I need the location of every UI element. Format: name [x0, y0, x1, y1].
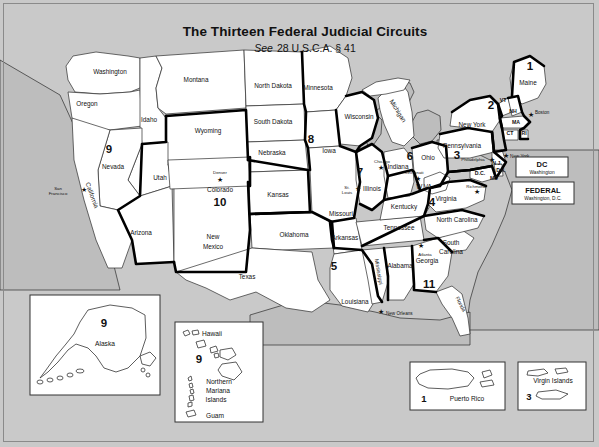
- circuit-number-10: 10: [214, 196, 227, 208]
- state-label-new-york: New York: [459, 121, 487, 128]
- state-label-wyoming: Wyoming: [195, 127, 222, 135]
- city-label-san-francisco-2: Francisco: [49, 191, 68, 196]
- page-title: The Thirteen Federal Judicial Circuits: [183, 24, 428, 39]
- state-north-dakota: [244, 50, 304, 106]
- state-label-iowa: Iowa: [322, 147, 336, 154]
- state-abbr-md: MD: [490, 175, 498, 181]
- state-label-missouri: Missouri: [329, 210, 353, 217]
- state-label-w-va-: W.VA.: [416, 183, 434, 190]
- circuit-number-11: 11: [423, 278, 436, 290]
- city-label-boston: Boston: [535, 110, 550, 115]
- state-label-arizona: Arizona: [130, 229, 152, 236]
- city-label-philadelphia: Philadelphia: [461, 157, 485, 162]
- state-label-utah: Utah: [153, 174, 167, 181]
- state-label-pennsylvania: Pennsylvania: [443, 142, 481, 150]
- state-label-illinois: Illinois: [363, 185, 381, 192]
- inset-virgin-islands-circuit: 3: [526, 391, 531, 402]
- aleutian-4: [67, 373, 73, 377]
- aleutian-1: [37, 380, 43, 384]
- state-label-georgia: Georgia: [416, 257, 439, 265]
- state-wyoming: [166, 110, 248, 164]
- state-label-texas: Texas: [239, 273, 256, 280]
- city-label-denver: Denver: [213, 170, 227, 175]
- inset-virgin-islands-label: Virgin Islands: [533, 377, 573, 385]
- inset-alaska-circuit: 9: [101, 317, 107, 329]
- star-new-york-city: ★: [503, 152, 509, 159]
- state-label-carolina: Carolina: [439, 248, 463, 255]
- state-abbr-n-j-: N.J.: [492, 160, 502, 166]
- inset-alaska-label: Alaska: [95, 340, 115, 347]
- state-label-north-carolina: North Carolina: [436, 216, 478, 223]
- inset-mariana-label-1: Northern: [206, 378, 232, 385]
- circuit-number-4: 4: [429, 196, 436, 208]
- state-label-new: New: [207, 233, 220, 240]
- state-label-montana: Montana: [184, 76, 209, 83]
- state-abbr-vt: VT: [500, 97, 507, 103]
- inset-hawaii-circuit: 9: [196, 353, 202, 365]
- state-label-ohio: Ohio: [421, 154, 435, 161]
- state-label-south-dakota: South Dakota: [254, 118, 293, 125]
- aleutian-5: [76, 369, 84, 373]
- state-label-nevada: Nevada: [102, 163, 124, 170]
- inset-virgin-islands-box: [518, 362, 586, 410]
- mariana-3: [190, 389, 194, 394]
- state-abbr-d-c-: D.C.: [475, 170, 486, 176]
- state-label-nebraska: Nebraska: [258, 149, 286, 156]
- aleutian-2: [47, 378, 53, 382]
- subtitle-see: See: [254, 42, 273, 54]
- circuit-number-6: 6: [407, 150, 413, 162]
- page-subtitle: See28 U.S.C.A. § 41: [254, 42, 356, 54]
- aleutian-3: [57, 376, 63, 380]
- alaska-island-2: [141, 368, 145, 372]
- subtitle-citation: 28 U.S.C.A. § 41: [277, 42, 356, 54]
- legend-federal-title: FEDERAL: [525, 186, 561, 195]
- city-label-st-louis-2: Louis: [342, 190, 352, 195]
- circuit-number-7: 7: [357, 166, 363, 178]
- state-label-wisconsin: Wisconsin: [344, 113, 374, 120]
- state-label-oregon: Oregon: [76, 100, 98, 108]
- puerto-rico-landmass: [416, 369, 474, 389]
- circuit-number-9: 9: [106, 143, 112, 155]
- state-abbr-ri: RI: [521, 130, 527, 136]
- city-label-richmond: Richmond: [466, 184, 486, 189]
- state-label-washington: Washington: [93, 68, 127, 76]
- legend-dc-subtitle: Washington: [529, 170, 554, 175]
- state-label-indiana: Indiana: [388, 163, 409, 170]
- inset-puerto-rico-label: Puerto Rico: [450, 395, 485, 402]
- state-label-virginia: Virginia: [435, 195, 457, 203]
- circuit-number-2: 2: [488, 99, 494, 111]
- state-label-kansas: Kansas: [267, 191, 288, 198]
- state-label-mexico: Mexico: [203, 243, 224, 250]
- legend-federal-subtitle: Washington, D.C.: [524, 196, 561, 201]
- state-label-maine: Maine: [519, 79, 537, 86]
- state-colorado: [168, 157, 250, 189]
- star-new-orleans: ★: [378, 308, 384, 315]
- city-label-new-orleans: New Orleans: [386, 311, 413, 316]
- state-abbr-ma: MA: [512, 119, 520, 125]
- state-label-louisiana: Louisiana: [341, 298, 369, 305]
- inset-mariana-label-3: Islands: [206, 396, 228, 403]
- hawaii-kauai: [192, 330, 199, 335]
- map-svg: ★ San Francisco ★ Denver ★ St. Louis ★ C…: [0, 0, 599, 447]
- state-label-kentucky: Kentucky: [391, 203, 418, 211]
- star-denver: ★: [217, 176, 223, 183]
- star-chicago: ★: [378, 164, 384, 171]
- star-richmond: ★: [474, 188, 480, 195]
- circuit-number-8: 8: [308, 133, 315, 145]
- state-label-arkansas: Arkansas: [332, 234, 359, 241]
- state-label-minnesota: Minnesota: [303, 84, 333, 91]
- state-abbr-ct: CT: [507, 130, 515, 136]
- alaska-island-3: [146, 373, 150, 377]
- city-label-cincinnati: Cincinnati: [405, 170, 424, 175]
- state-label-oklahoma: Oklahoma: [279, 231, 309, 238]
- circuit-number-1: 1: [527, 60, 534, 72]
- inset-puerto-rico: 1 Puerto Rico: [410, 362, 505, 410]
- legend-dc-title: DC: [537, 160, 548, 169]
- hawaii-lanai: [214, 353, 219, 358]
- star-st-louis: ★: [355, 185, 361, 192]
- inset-alaska: 9 Alaska: [30, 295, 160, 395]
- mariana-5: [188, 402, 192, 407]
- star-cincinnati: ★: [415, 175, 421, 182]
- state-label-idaho: Idaho: [141, 116, 157, 123]
- inset-puerto-rico-circuit: 1: [421, 393, 427, 404]
